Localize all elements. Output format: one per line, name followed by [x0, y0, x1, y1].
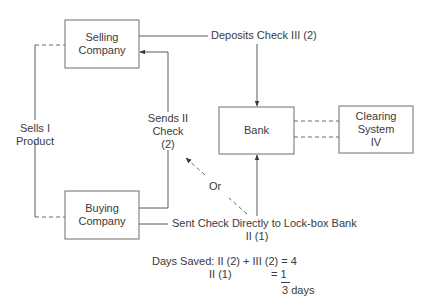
days-saved-line1: Days Saved: II (2) + III (2) = 4	[152, 255, 297, 268]
sends-check-line1: Sends II	[138, 112, 198, 125]
selling-company-label: Selling Company	[65, 20, 139, 68]
sends-check-line3: (2)	[138, 138, 198, 151]
bank-label: Bank	[219, 107, 294, 154]
sells-product-label: Sells I Product	[5, 122, 65, 148]
or-dashed-arrow	[186, 158, 205, 175]
days-saved-total-text: 3 days	[282, 284, 314, 297]
days-saved-line2-right: = 1	[271, 268, 287, 281]
bank-label-text: Bank	[244, 124, 269, 137]
sends-check-label: Sends II Check (2)	[138, 112, 198, 151]
clearing-system-line1: Clearing	[356, 110, 397, 123]
sells-product-line1: Sells I	[5, 122, 65, 135]
sends-check-line2: Check	[138, 125, 198, 138]
days-saved-line2-left: II (1)	[209, 268, 232, 281]
selling-company-line1: Selling	[78, 31, 125, 44]
sent-directly-label-line1: Sent Check Directly to Lock-box Bank	[172, 217, 357, 230]
buying-company-line2: Company	[78, 215, 125, 228]
clearing-system-label: Clearing System IV	[339, 106, 413, 153]
sent-directly-label-line2: II (1)	[227, 230, 287, 243]
or-dashed-line-lower	[229, 198, 247, 214]
buying-company-label: Buying Company	[65, 191, 139, 239]
or-label: Or	[209, 180, 221, 193]
sends-check-arrow	[140, 52, 168, 112]
buying-company-line1: Buying	[78, 202, 125, 215]
sells-product-line2: Product	[5, 135, 65, 148]
clearing-system-line2: System	[356, 123, 397, 136]
clearing-system-line3: IV	[356, 136, 397, 149]
sends-check-line-lower	[139, 150, 168, 208]
deposits-check-label: Deposits Check III (2)	[211, 29, 317, 42]
selling-company-line2: Company	[78, 44, 125, 57]
